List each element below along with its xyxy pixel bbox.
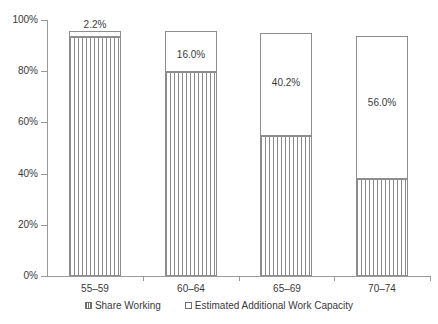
- bar-segment-share-working[interactable]: [356, 179, 408, 276]
- bar-stack[interactable]: 16.0%: [165, 20, 217, 276]
- x-axis-label: 65–69: [239, 283, 335, 294]
- y-axis-tick: [41, 225, 48, 226]
- y-axis-tick: [41, 20, 48, 21]
- legend-swatch-icon: [185, 302, 192, 309]
- y-axis-tick: [41, 276, 48, 277]
- x-axis-tick: [143, 276, 144, 281]
- x-axis-label: 60–64: [143, 283, 239, 294]
- bar-segment-share-working[interactable]: [260, 136, 312, 276]
- y-axis-label: 100%: [0, 15, 38, 25]
- legend-item[interactable]: Estimated Additional Work Capacity: [185, 300, 353, 311]
- bar-segment-work-capacity[interactable]: 56.0%: [356, 36, 408, 179]
- y-axis-label: 20%: [0, 220, 38, 230]
- bar-segment-share-working[interactable]: [69, 37, 121, 276]
- y-axis-label: 0%: [0, 271, 38, 281]
- y-axis-label: 60%: [0, 117, 38, 127]
- x-axis-tick: [430, 276, 431, 281]
- bar-value-label: 56.0%: [368, 97, 396, 108]
- legend-swatch-icon: [85, 302, 92, 309]
- chart-container: 0%20%40%60%80%100% 55–5960–6465–6970–74 …: [0, 0, 438, 324]
- bar-value-label: 16.0%: [177, 49, 205, 60]
- legend-item[interactable]: Share Working: [85, 300, 161, 311]
- legend-label: Estimated Additional Work Capacity: [195, 300, 353, 311]
- bar-segment-work-capacity[interactable]: 2.2%: [69, 31, 121, 37]
- x-axis-tick: [334, 276, 335, 281]
- x-axis-label: 70–74: [334, 283, 430, 294]
- y-axis-label: 80%: [0, 66, 38, 76]
- chart-legend: Share WorkingEstimated Additional Work C…: [0, 300, 438, 311]
- bar-value-label: 40.2%: [272, 77, 300, 88]
- bar-segment-share-working[interactable]: [165, 72, 217, 276]
- bar-stack[interactable]: 2.2%: [69, 20, 121, 276]
- legend-label: Share Working: [95, 300, 161, 311]
- x-axis-label: 55–59: [47, 283, 143, 294]
- y-axis-tick: [41, 174, 48, 175]
- y-axis-tick: [41, 122, 48, 123]
- bar-value-label: 2.2%: [84, 19, 107, 30]
- bar-segment-work-capacity[interactable]: 16.0%: [165, 31, 217, 72]
- bar-stack[interactable]: 40.2%: [260, 20, 312, 276]
- y-axis-label: 40%: [0, 169, 38, 179]
- y-axis-line: [47, 20, 48, 277]
- bar-stack[interactable]: 56.0%: [356, 20, 408, 276]
- y-axis-tick: [41, 71, 48, 72]
- bar-segment-work-capacity[interactable]: 40.2%: [260, 33, 312, 136]
- x-axis-tick: [239, 276, 240, 281]
